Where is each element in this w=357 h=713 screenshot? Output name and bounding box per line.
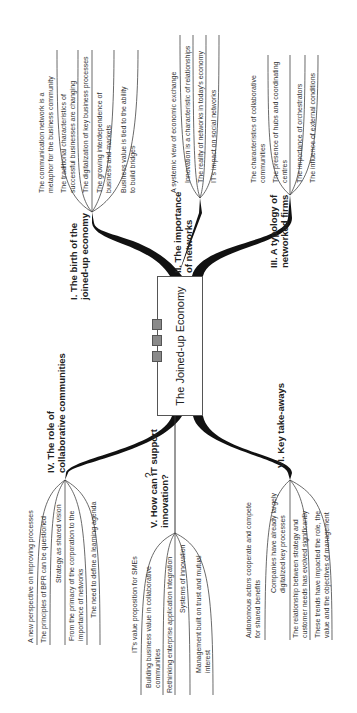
attachment-icon [152, 335, 162, 346]
branch-6-item[interactable]: These trends have impacted the role, the… [314, 511, 331, 638]
branch-5-label[interactable]: V. How can IT support innovation? [148, 429, 170, 528]
branch-5-item[interactable]: Building business value in collaborative… [145, 566, 162, 688]
branch-5-item[interactable]: Management built on trust and mutualinte… [195, 555, 212, 673]
branch-2-item[interactable]: The reality of networks in today's econo… [197, 51, 206, 183]
branch-2-label[interactable]: II. The importance of networks [172, 192, 194, 273]
branch-1-item[interactable]: The digitalization of key business proce… [82, 56, 91, 193]
branch-4-item[interactable]: Strategy as shared vision [55, 504, 64, 583]
branch-6-item[interactable]: Autonomous actors cooperate and competef… [245, 502, 262, 638]
branch-4-item[interactable]: The principles of BPR can be questioned [40, 516, 49, 643]
branch-3-item[interactable]: The characteristics of collaborativecomm… [250, 75, 267, 183]
branch-4-item[interactable]: A new perspective on improving processes [27, 510, 36, 643]
branch-5-item[interactable]: Systems of innovation [179, 545, 188, 613]
branch-4-item[interactable]: From the primacy of the corporation to t… [68, 511, 85, 641]
branch-2-item[interactable]: IT's impact on social networks [210, 90, 219, 183]
branch-1-item[interactable]: The communication network is ametaphor f… [38, 76, 55, 193]
central-topic[interactable]: The Joined-up Economy [157, 276, 203, 416]
branch-4-item[interactable]: The need to define a learning agenda [90, 502, 99, 618]
branch-3-item[interactable]: The importance of orchestrators [296, 84, 305, 183]
branch-2-item[interactable]: A systemic view of economic exchange [170, 72, 179, 193]
attachment-icon [152, 319, 162, 330]
attachment-icon [152, 351, 162, 362]
branch-4-label[interactable]: IV. The role of collaborative communitie… [45, 353, 67, 473]
branch-5-item[interactable]: IT's value proposition for SMEs [131, 556, 140, 653]
central-topic-title: The Joined-up Economy [174, 286, 186, 405]
mind-map-canvas: The Joined-up Economy I. The birth of th… [0, 0, 357, 713]
branch-3-label[interactable]: III. A typology of networked firms [268, 195, 290, 268]
branch-3-item[interactable]: The influence of external conditions [309, 73, 318, 183]
branch-3-item[interactable]: The presence of hubs and coordinatingcen… [272, 62, 289, 183]
branch-6-item[interactable]: The relationship between strategy andcus… [292, 511, 309, 638]
branch-1-item[interactable]: The traditional characteristics ofsucces… [60, 81, 77, 193]
branch-5-item[interactable]: Rethinking enterprise application integr… [166, 557, 175, 693]
branch-1-item[interactable]: Business value is tied to the abilityto … [120, 86, 137, 193]
branch-1-label[interactable]: I. The birth of the joined-up economy [68, 213, 90, 300]
branch-2-item[interactable]: Innovation is a characteristic of relati… [184, 46, 193, 183]
branch-1-item[interactable]: The growing interdependence ofbusiness a… [96, 93, 113, 193]
branch-6-item[interactable]: Companies have already largelydigitalize… [270, 493, 287, 593]
branch-6-label[interactable]: VI. Key take-aways [275, 383, 286, 468]
